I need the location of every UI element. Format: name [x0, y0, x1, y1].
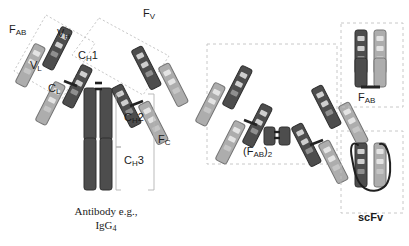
label-fv-region: FV — [143, 8, 155, 21]
fab2-hinge-left — [264, 127, 275, 145]
panel-antibody — [14, 15, 189, 190]
label-fc-region: FC — [158, 134, 171, 147]
label-ch2: CH2 — [124, 112, 144, 125]
domain-vl-right — [158, 63, 189, 108]
label-cl: CL — [48, 83, 60, 96]
label-ch1: CH1 — [78, 50, 98, 63]
fab2-vh-left — [222, 65, 253, 110]
dashed-box-scfv — [341, 131, 403, 213]
label-fab2-fragment: (FAB)2 — [243, 146, 272, 159]
fab-ch1 — [355, 58, 367, 87]
label-fab-region: FAB — [9, 24, 26, 37]
domain-ch2-right — [100, 88, 112, 140]
bracket-ch3 — [116, 147, 121, 190]
panel-fab2 — [195, 44, 369, 184]
scfv-vh — [355, 143, 367, 187]
label-vl: VL — [30, 60, 42, 73]
domain-ch3-left — [84, 138, 96, 190]
fab2-vl-left — [195, 82, 226, 127]
hinge-disulfides — [95, 83, 102, 89]
caption-line-2: IgG4 — [46, 219, 166, 234]
fab2-cl-right — [318, 140, 349, 185]
domain-ch2-left — [84, 88, 96, 140]
fab-cl — [374, 58, 386, 87]
figure-canvas: FAB VH CH1 VL CL FV CH2 CH3 FC (FAB)2 FA… — [0, 0, 409, 246]
fab2-ch1-right — [291, 123, 322, 168]
label-vh: VH — [57, 28, 70, 41]
caption-antibody: Antibody e.g., IgG4 — [46, 205, 166, 234]
domain-vh-right — [131, 46, 162, 91]
label-scfv-fragment: scFv — [358, 212, 383, 223]
fab2-vl-right — [338, 102, 369, 147]
fab2-hinge-right — [279, 127, 290, 145]
panel-scfv — [341, 131, 403, 213]
fab2-cl-left — [215, 120, 246, 165]
caption-line-1: Antibody e.g., — [46, 205, 166, 219]
label-fab-fragment: FAB — [358, 92, 375, 105]
label-ch3: CH3 — [124, 155, 144, 168]
scfv-vl — [374, 143, 386, 187]
domain-ch3-right — [100, 138, 112, 190]
